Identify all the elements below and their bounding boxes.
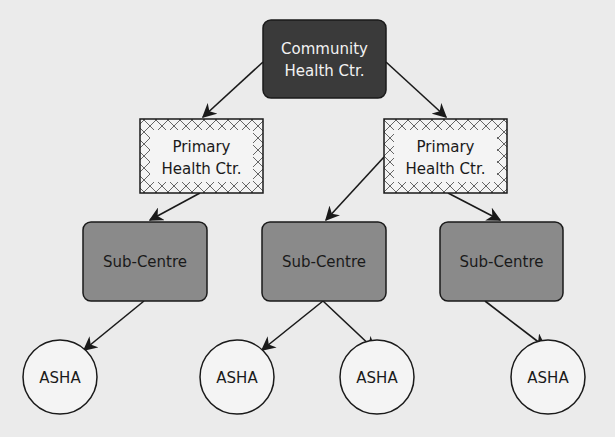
phc-left-label-line1: Primary	[173, 138, 231, 156]
edge-sub-3-asha-4	[485, 301, 545, 347]
asha-2-label: ASHA	[216, 369, 258, 387]
asha-4-label: ASHA	[527, 369, 569, 387]
edge-phc-right-sub-3	[448, 193, 500, 220]
node-sub-centre-3: Sub-Centre	[440, 222, 563, 301]
node-asha-3: ASHA	[340, 340, 414, 414]
node-asha-1: ASHA	[23, 340, 97, 414]
asha-1-label: ASHA	[39, 369, 81, 387]
phc-right-label-line2: Health Ctr.	[406, 160, 486, 178]
edge-sub-2-asha-2	[262, 301, 323, 350]
edge-phc-right-sub-2	[326, 157, 384, 220]
node-sub-centre-2: Sub-Centre	[262, 222, 386, 301]
edge-community-phc-right	[386, 62, 446, 117]
edge-phc-left-sub-1	[150, 193, 200, 220]
edge-sub-1-asha-1	[84, 301, 144, 350]
asha-3-label: ASHA	[356, 369, 398, 387]
phc-right-label-line1: Primary	[417, 138, 475, 156]
node-primary-health-centre-right: Primary Health Ctr.	[384, 119, 507, 193]
node-community-health-centre: Community Health Ctr.	[263, 20, 386, 98]
sub-centre-2-label: Sub-Centre	[282, 253, 366, 271]
community-label-line1: Community	[281, 40, 368, 58]
node-asha-4: ASHA	[511, 340, 585, 414]
edge-community-phc-left	[203, 62, 263, 117]
edges	[84, 62, 545, 350]
health-hierarchy-diagram: Community Health Ctr. Primary Health Ctr…	[0, 0, 615, 437]
sub-centre-3-label: Sub-Centre	[459, 253, 543, 271]
phc-left-label-line2: Health Ctr.	[162, 160, 242, 178]
community-label-line2: Health Ctr.	[285, 62, 365, 80]
sub-centre-1-label: Sub-Centre	[103, 253, 187, 271]
node-sub-centre-1: Sub-Centre	[83, 222, 207, 301]
node-primary-health-centre-left: Primary Health Ctr.	[140, 119, 263, 193]
node-asha-2: ASHA	[200, 340, 274, 414]
